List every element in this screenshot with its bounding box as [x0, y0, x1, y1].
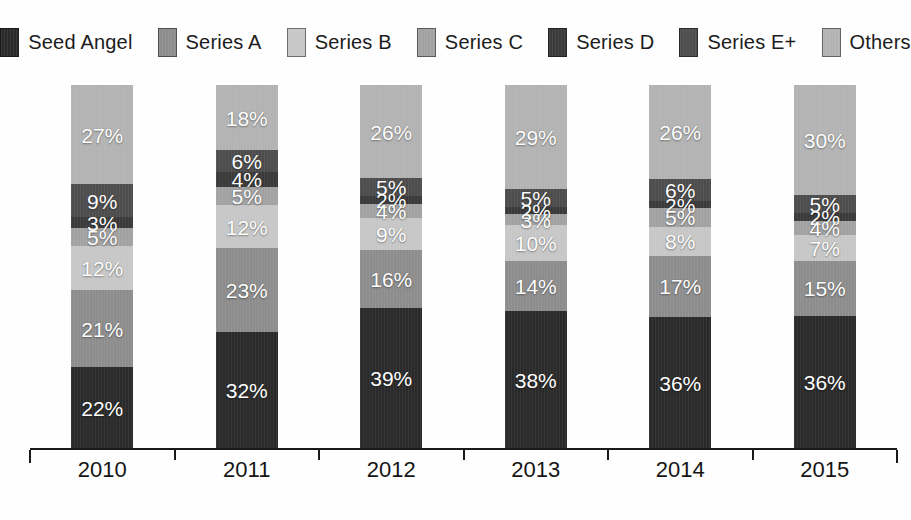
- plot-area: 27%9%3%5%12%21%22%18%6%4%5%12%23%32%26%5…: [30, 85, 897, 448]
- legend-label: Series D: [576, 31, 654, 54]
- segment-value-label: 4%: [376, 200, 406, 221]
- segment-value-label: 17%: [659, 276, 701, 297]
- segment-series-a-2010: 21%: [71, 290, 133, 367]
- segment-series-a-2013: 14%: [505, 261, 567, 311]
- segment-value-label: 23%: [226, 280, 268, 301]
- segment-value-label: 29%: [515, 127, 557, 148]
- segment-value-label: 36%: [659, 372, 701, 393]
- x-axis-tick: [29, 450, 31, 463]
- segment-value-label: 8%: [665, 231, 695, 252]
- legend-label: Series A: [186, 31, 262, 54]
- x-axis-tick: [174, 450, 176, 460]
- stacked-bar-2015: 30%5%2%4%7%15%36%: [794, 85, 856, 448]
- segment-value-label: 12%: [81, 258, 123, 279]
- segment-series-b-2012: 9%: [360, 218, 422, 250]
- segment-value-label: 36%: [804, 371, 846, 392]
- segment-value-label: 12%: [226, 216, 268, 237]
- segment-value-label: 30%: [804, 130, 846, 151]
- legend-item-series-b: Series B: [287, 28, 392, 57]
- x-axis-tick: [318, 450, 320, 460]
- legend-label: Series C: [445, 31, 523, 54]
- segment-value-label: 4%: [810, 217, 840, 238]
- x-axis-label-2015: 2015: [800, 457, 849, 483]
- segment-others-2011: 18%: [216, 85, 278, 150]
- segment-series-c-2010: 5%: [71, 228, 133, 246]
- segment-value-label: 15%: [804, 278, 846, 299]
- legend-swatch-icon: [287, 28, 306, 57]
- x-axis-tick: [752, 450, 754, 460]
- legend-swatch-icon: [822, 28, 841, 57]
- segment-value-label: 38%: [515, 369, 557, 390]
- segment-series-b-2014: 8%: [649, 227, 711, 256]
- segment-value-label: 9%: [87, 190, 117, 211]
- segment-value-label: 10%: [515, 233, 557, 254]
- segment-value-label: 26%: [370, 121, 412, 142]
- segment-others-2013: 29%: [505, 85, 567, 189]
- segment-series-c-2014: 5%: [649, 208, 711, 226]
- segment-value-label: 21%: [81, 318, 123, 339]
- segment-value-label: 26%: [659, 122, 701, 143]
- legend-swatch-icon: [158, 28, 177, 57]
- legend-label: Others: [850, 31, 911, 54]
- segment-value-label: 5%: [232, 185, 262, 206]
- segment-series-c-2015: 4%: [794, 221, 856, 236]
- legend-swatch-icon: [548, 28, 567, 57]
- segment-value-label: 14%: [515, 276, 557, 297]
- legend-item-seed-angel: Seed Angel: [0, 28, 132, 57]
- segment-seed-angel-2012: 39%: [360, 308, 422, 448]
- legend-swatch-icon: [679, 28, 698, 57]
- segment-value-label: 7%: [810, 238, 840, 259]
- legend-label: Seed Angel: [28, 31, 132, 54]
- segment-series-b-2015: 7%: [794, 235, 856, 261]
- segment-others-2012: 26%: [360, 85, 422, 178]
- legend-item-series-d: Series D: [548, 28, 654, 57]
- segment-value-label: 27%: [81, 124, 123, 145]
- x-axis-tick: [463, 450, 465, 460]
- stacked-bar-2010: 27%9%3%5%12%21%22%: [71, 85, 133, 448]
- legend-item-series-a: Series A: [158, 28, 262, 57]
- segment-seed-angel-2011: 32%: [216, 332, 278, 448]
- x-axis-label-2013: 2013: [511, 457, 560, 483]
- segment-series-b-2010: 12%: [71, 246, 133, 290]
- stacked-bar-2013: 29%5%2%3%10%14%38%: [505, 85, 567, 448]
- segment-series-b-2011: 12%: [216, 205, 278, 249]
- x-axis-tick: [896, 450, 898, 463]
- segment-seed-angel-2015: 36%: [794, 316, 856, 448]
- segment-series-c-2012: 4%: [360, 204, 422, 218]
- segment-others-2014: 26%: [649, 85, 711, 179]
- segment-seed-angel-2010: 22%: [71, 367, 133, 448]
- x-axis-label-2012: 2012: [367, 457, 416, 483]
- segment-value-label: 3%: [521, 209, 551, 230]
- legend-item-series-c: Series C: [417, 28, 523, 57]
- x-axis-label-2014: 2014: [656, 457, 705, 483]
- x-axis-labels: 201020112012201320142015: [30, 457, 897, 485]
- segment-series-a-2012: 16%: [360, 250, 422, 308]
- legend-item-series-e: Series E+: [679, 28, 796, 57]
- stacked-bar-2011: 18%6%4%5%12%23%32%: [216, 85, 278, 448]
- chart-legend: Seed AngelSeries ASeries BSeries CSeries…: [0, 28, 911, 57]
- segment-value-label: 22%: [81, 397, 123, 418]
- segment-value-label: 5%: [665, 207, 695, 228]
- segment-series-c-2013: 3%: [505, 214, 567, 225]
- legend-swatch-icon: [417, 28, 436, 57]
- x-axis-label-2010: 2010: [78, 457, 127, 483]
- segment-series-a-2015: 15%: [794, 261, 856, 316]
- segment-others-2010: 27%: [71, 85, 133, 184]
- segment-series-c-2011: 5%: [216, 187, 278, 205]
- x-axis-tick: [607, 450, 609, 460]
- segment-value-label: 16%: [370, 269, 412, 290]
- segment-value-label: 5%: [87, 227, 117, 248]
- stacked-bar-2012: 26%5%2%4%9%16%39%: [360, 85, 422, 448]
- segment-value-label: 32%: [226, 379, 268, 400]
- segment-value-label: 39%: [370, 367, 412, 388]
- segment-series-a-2011: 23%: [216, 248, 278, 331]
- segment-others-2015: 30%: [794, 85, 856, 195]
- segment-value-label: 18%: [226, 107, 268, 128]
- legend-item-others: Others: [822, 28, 911, 57]
- stacked-bar-2014: 26%6%2%5%8%17%36%: [649, 85, 711, 448]
- legend-label: Series B: [315, 31, 392, 54]
- segment-seed-angel-2013: 38%: [505, 311, 567, 448]
- legend-swatch-icon: [0, 28, 19, 57]
- segment-value-label: 9%: [376, 224, 406, 245]
- legend-label: Series E+: [707, 31, 796, 54]
